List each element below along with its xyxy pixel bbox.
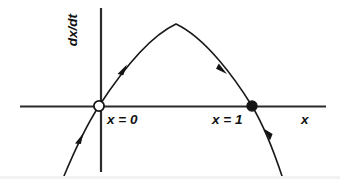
y-axis-label: dx/dt [66,14,80,46]
bottom-edge-strip [0,176,340,179]
phase-portrait-figure: dx/dt x = 0 x = 1 x [0,0,340,179]
parabola-curve [64,24,282,176]
flow-arrow-lower-left [75,133,84,144]
fixed-point-unstable-label: x = 0 [107,113,137,127]
fixed-point-stable-label: x = 1 [212,113,242,127]
phase-portrait-canvas [0,0,340,179]
x-axis-label: x [301,113,309,127]
fixed-point-stable-marker [247,101,257,111]
fixed-point-unstable-marker [94,101,104,111]
